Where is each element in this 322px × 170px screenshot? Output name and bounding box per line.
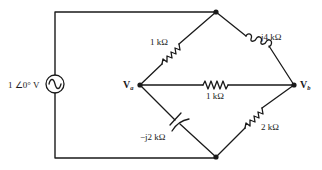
circuit-diagram: 1 ∠0° V 1 kΩ j4 kΩ 1 kΩ −j2 kΩ 2 kΩ Va <box>0 0 322 170</box>
resistor-bottom-right-label: 2 kΩ <box>261 122 279 132</box>
node-bottom <box>213 154 218 159</box>
node-top <box>213 9 218 14</box>
inductor-label: j4 kΩ <box>260 32 282 42</box>
source-label: 1 ∠0° V <box>8 80 40 90</box>
node-vb <box>291 82 296 87</box>
ac-source-icon <box>46 75 64 93</box>
resistor-bottom-right-icon <box>216 85 294 157</box>
resistor-top-left-label: 1 kΩ <box>150 37 168 47</box>
bottom-left-wire <box>55 93 216 158</box>
node-va <box>137 82 142 87</box>
inductor-top-right-icon <box>216 12 294 85</box>
node-vb-label: Vb <box>300 79 311 91</box>
resistor-top-left-icon <box>140 12 216 85</box>
capacitor-label: −j2 kΩ <box>140 132 166 142</box>
resistor-middle-icon <box>140 81 294 89</box>
node-va-label: Va <box>123 79 134 91</box>
resistor-middle-label: 1 kΩ <box>206 91 224 101</box>
top-left-wire <box>55 12 216 75</box>
capacitor-icon <box>140 85 216 157</box>
